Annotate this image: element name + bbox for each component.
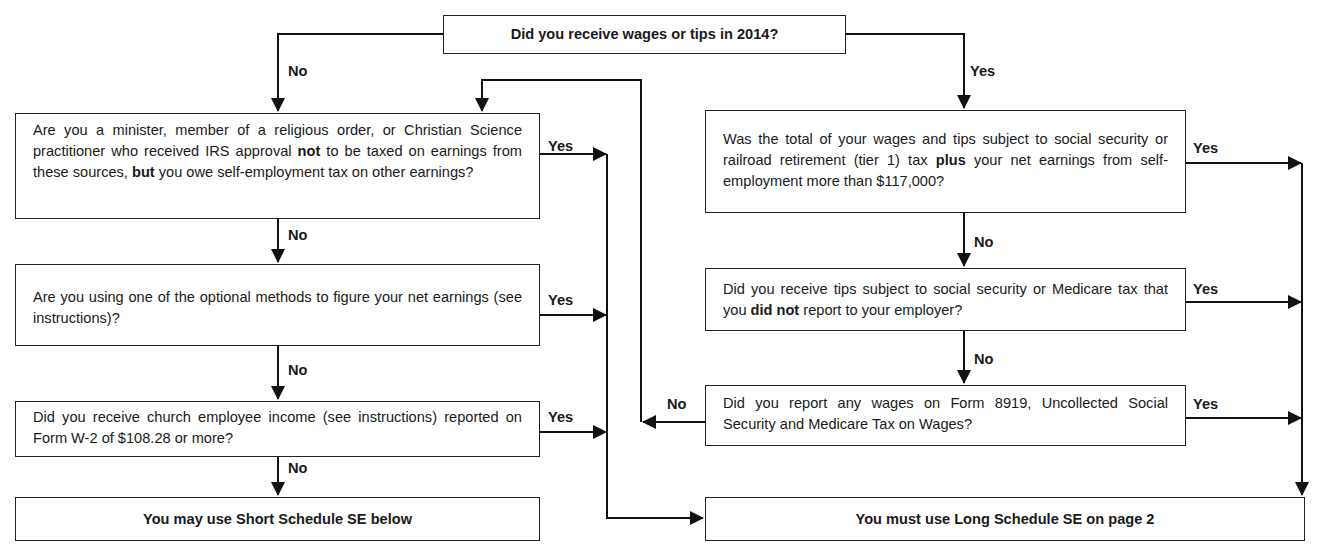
question-unreported-tips-text: Did you receive tips subject to social s…	[723, 279, 1168, 321]
edge-label-total-yes: Yes	[1193, 140, 1218, 156]
start-question-text: Did you receive wages or tips in 2014?	[511, 24, 779, 45]
question-form-8919-box: Did you report any wages on Form 8919, U…	[705, 385, 1186, 446]
question-minister-text: Are you a minister, member of a religiou…	[33, 120, 522, 183]
edge-label-church-no: No	[288, 460, 307, 476]
edge-label-optional-no: No	[288, 362, 307, 378]
question-form-8919-text: Did you report any wages on Form 8919, U…	[723, 393, 1168, 435]
outcome-long-schedule-text: You must use Long Schedule SE on page 2	[856, 509, 1155, 530]
question-optional-text: Are you using one of the optional method…	[33, 287, 522, 329]
edge-label-minister-yes: Yes	[548, 138, 573, 154]
edge-label-tips-yes: Yes	[1193, 281, 1218, 297]
edge-label-8919-no: No	[667, 396, 686, 412]
edge-label-start-yes: Yes	[970, 63, 995, 79]
edge-label-church-yes: Yes	[548, 409, 573, 425]
edge-label-minister-no: No	[288, 227, 307, 243]
outcome-short-schedule-text: You may use Short Schedule SE below	[143, 509, 412, 530]
outcome-short-schedule-box: You may use Short Schedule SE below	[15, 497, 540, 541]
question-total-wages-box: Was the total of your wages and tips sub…	[705, 110, 1186, 213]
question-total-wages-text: Was the total of your wages and tips sub…	[723, 129, 1168, 192]
edge-label-start-no: No	[288, 63, 307, 79]
question-church-text: Did you receive church employee income (…	[33, 407, 522, 449]
question-optional-box: Are you using one of the optional method…	[15, 264, 540, 346]
edge-label-tips-no: No	[974, 351, 993, 367]
schedule-se-flowchart: Did you receive wages or tips in 2014? N…	[0, 0, 1317, 550]
edge-label-total-no: No	[974, 234, 993, 250]
outcome-long-schedule-box: You must use Long Schedule SE on page 2	[705, 497, 1305, 541]
question-minister-box: Are you a minister, member of a religiou…	[15, 113, 540, 219]
start-question-box: Did you receive wages or tips in 2014?	[443, 15, 846, 54]
edge-label-optional-yes: Yes	[548, 292, 573, 308]
question-church-box: Did you receive church employee income (…	[15, 401, 540, 457]
question-unreported-tips-box: Did you receive tips subject to social s…	[705, 268, 1186, 331]
edge-label-8919-yes: Yes	[1193, 396, 1218, 412]
